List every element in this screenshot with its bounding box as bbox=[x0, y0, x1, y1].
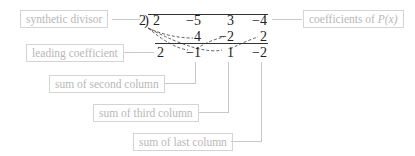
bottom-row-value: 1 bbox=[210, 45, 234, 61]
top-row-value: 2 bbox=[136, 13, 160, 29]
top-row-value: 3 bbox=[210, 13, 234, 29]
sum-last-column-label: sum of last column bbox=[133, 133, 233, 151]
middle-row-value: 2 bbox=[243, 29, 267, 45]
polynomial-name: P(x) bbox=[378, 13, 398, 25]
coefficients-label: coefficients of P(x) bbox=[303, 10, 404, 28]
top-row-value: −4 bbox=[243, 13, 267, 29]
middle-row-value: 4 bbox=[177, 29, 201, 45]
middle-row-value: −2 bbox=[210, 29, 234, 45]
bottom-row-value: −1 bbox=[177, 45, 201, 61]
leading-coefficient-label: leading coefficient bbox=[26, 44, 124, 62]
bottom-row-value: −2 bbox=[243, 45, 267, 61]
sum-third-column-label: sum of third column bbox=[93, 104, 199, 122]
sum-second-column-label: sum of second column bbox=[49, 75, 165, 93]
bottom-row-value: 2 bbox=[140, 45, 164, 61]
synthetic-divisor-label: synthetic divisor bbox=[20, 10, 108, 28]
top-row-value: −5 bbox=[177, 13, 201, 29]
coefficients-text: coefficients of bbox=[309, 13, 378, 25]
